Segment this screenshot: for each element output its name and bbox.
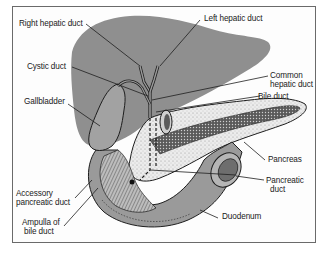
label-pancreatic-duct-line2: duct [270,186,285,195]
label-cystic-duct: Cystic duct [27,63,66,72]
label-pancreas: Pancreas [268,156,302,165]
anatomy-illustration [0,0,330,255]
label-left-hepatic-duct: Left hepatic duct [204,15,262,24]
label-duodenum: Duodenum [222,213,261,222]
ampulla-marker [130,180,135,185]
label-gallbladder: Gallbladder [24,98,65,107]
label-accessory-pancreatic-duct-line2: pancreatic duct [16,199,70,208]
label-bile-duct: Bile duct [258,93,289,102]
label-common-hepatic-duct-line2: hepatic duct [270,81,313,90]
label-right-hepatic-duct: Right hepatic duct [19,20,83,29]
label-ampulla-line2: bile duct [24,228,54,237]
